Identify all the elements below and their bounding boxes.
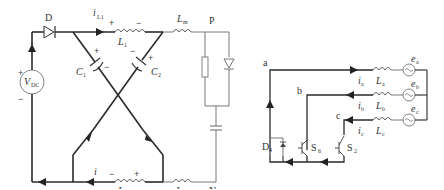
svg-text:b: b bbox=[382, 106, 385, 112]
capacitor-c2: + − C 2 bbox=[93, 32, 163, 130]
switch-s2: S 2 bbox=[335, 136, 357, 156]
node-b-label: b bbox=[297, 85, 302, 96]
svg-text:L: L bbox=[375, 125, 382, 136]
resistor bbox=[202, 57, 208, 77]
svg-text:a: a bbox=[361, 81, 364, 87]
svg-text:m: m bbox=[183, 19, 188, 25]
load-diode bbox=[224, 59, 234, 68]
arrow-up-icon bbox=[266, 100, 274, 108]
diode-label: D bbox=[45, 12, 52, 23]
arrow-left-icon bbox=[346, 91, 354, 99]
svg-text:+: + bbox=[109, 18, 114, 28]
svg-text:−: − bbox=[130, 46, 135, 56]
current-il2-label: i bbox=[94, 166, 97, 177]
svg-text:+: + bbox=[94, 46, 99, 56]
c1-label: C bbox=[76, 66, 83, 77]
c2-label: C bbox=[151, 66, 158, 77]
svg-text:c: c bbox=[382, 131, 385, 137]
load-network: P N bbox=[202, 15, 234, 189]
inductor-l1: + − L 1 bbox=[109, 18, 145, 48]
dc-voltage-source: V DC + − bbox=[18, 32, 44, 182]
node-p-label: P bbox=[209, 15, 215, 26]
svg-text:−: − bbox=[109, 169, 114, 179]
node-n-label: N bbox=[209, 185, 216, 189]
arrow-left-icon bbox=[86, 178, 94, 186]
arrow-right-icon bbox=[96, 28, 104, 36]
plus-sign: + bbox=[18, 68, 23, 78]
svg-text:4: 4 bbox=[269, 147, 272, 153]
svg-text:a: a bbox=[416, 59, 419, 65]
svg-text:S: S bbox=[347, 142, 353, 153]
svg-text:c: c bbox=[416, 109, 419, 115]
arrow-up-icon bbox=[28, 44, 36, 52]
inductor-lm-top: L m bbox=[163, 13, 205, 32]
svg-text:1: 1 bbox=[83, 72, 86, 78]
svg-text:c: c bbox=[361, 131, 364, 137]
svg-text:L: L bbox=[375, 75, 382, 86]
minus-sign: − bbox=[18, 94, 23, 104]
arrow-left-icon bbox=[320, 158, 328, 166]
arrow-right-icon bbox=[350, 66, 358, 74]
inductor-lm-bottom: L m bbox=[163, 180, 205, 190]
arrow-left-icon bbox=[38, 178, 46, 186]
svg-text:−: − bbox=[136, 18, 141, 28]
switch-s6: S 6 bbox=[298, 140, 321, 156]
arrow-left-icon bbox=[345, 116, 353, 124]
svg-text:L1: L1 bbox=[97, 14, 104, 20]
svg-text:S: S bbox=[311, 142, 317, 153]
node-c-label: c bbox=[336, 110, 341, 121]
svg-text:+: + bbox=[148, 53, 153, 63]
l1-label: L bbox=[117, 36, 124, 47]
lm-top-label: L bbox=[176, 13, 183, 24]
svg-text:DC: DC bbox=[31, 82, 39, 88]
diode-d4: D 4 bbox=[262, 138, 286, 156]
svg-text:2: 2 bbox=[158, 72, 161, 78]
node-a-label: a bbox=[263, 57, 268, 68]
svg-text:a: a bbox=[382, 81, 385, 87]
svg-text:b: b bbox=[361, 106, 364, 112]
inductor-l2: − + L 2 bbox=[109, 169, 145, 189]
current-il1-label: i bbox=[93, 7, 96, 18]
l2-label: L bbox=[117, 185, 124, 189]
svg-text:1: 1 bbox=[124, 42, 127, 48]
lm-bottom-label: L bbox=[175, 185, 182, 189]
svg-text:+: + bbox=[134, 169, 139, 179]
svg-text:6: 6 bbox=[318, 148, 321, 154]
arrow-left-icon bbox=[285, 158, 293, 166]
z-source-circuit: V DC + − D i L1 + − L 1 L bbox=[18, 7, 234, 189]
svg-text:L: L bbox=[375, 100, 382, 111]
diode-d: D bbox=[44, 12, 55, 38]
svg-text:b: b bbox=[416, 84, 419, 90]
svg-text:−: − bbox=[104, 62, 109, 72]
three-phase-circuit: a b c i a L a e a bbox=[262, 53, 427, 166]
svg-text:2: 2 bbox=[354, 148, 357, 154]
